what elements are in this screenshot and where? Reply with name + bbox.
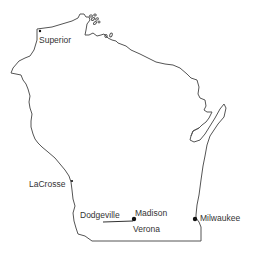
city-label-lacrosse[interactable]: LaCrosse: [29, 180, 65, 189]
state-outline: [11, 14, 226, 241]
city-label-superior[interactable]: Superior: [39, 36, 71, 45]
city-label-milwaukee[interactable]: Milwaukee: [200, 214, 240, 223]
route-dodgeville-madison: [103, 221, 133, 222]
city-marker-superior[interactable]: [39, 30, 41, 32]
city-label-verona[interactable]: Verona: [133, 225, 160, 234]
green-bay-shoreline: [191, 128, 199, 136]
city-label-madison[interactable]: Madison: [135, 209, 167, 218]
city-marker-lacrosse[interactable]: [71, 180, 73, 182]
apostle-islands: [89, 14, 113, 38]
city-label-dodgeville[interactable]: Dodgeville: [80, 211, 120, 220]
city-marker-milwaukee[interactable]: [193, 217, 197, 221]
